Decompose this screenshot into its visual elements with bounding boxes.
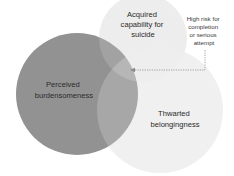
venn-diagram: Perceived burdensomeness Acquired capabi… bbox=[0, 0, 234, 176]
annotation-high-risk: High risk for completion or serious atte… bbox=[187, 15, 222, 46]
